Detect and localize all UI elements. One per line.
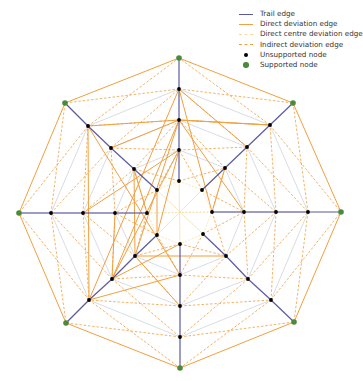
centre-deviation-edge: [203, 212, 212, 234]
trail-edge: [248, 279, 271, 300]
direct-deviation-edge: [112, 244, 180, 279]
indirect-deviation-swatch-icon: [238, 40, 254, 50]
legend-item-supported-node: Supported node: [238, 60, 363, 70]
indirect-deviation-edge: [180, 300, 271, 368]
indirect-deviation-edge: [112, 279, 180, 337]
unsupported-node: [268, 123, 272, 127]
unsupported-node: [245, 145, 249, 149]
direct-deviation-edge: [179, 89, 212, 212]
centre-deviation-edge: [179, 181, 202, 190]
indirect-deviation-edge: [179, 150, 202, 190]
unsupported-node: [178, 242, 182, 246]
indirect-deviation-edge: [248, 212, 308, 279]
supported-node: [62, 100, 68, 106]
legend-label: Unsupported node: [260, 50, 327, 60]
indirect-deviation-edge: [202, 190, 244, 212]
legend-label: Direct deviation edge: [260, 19, 337, 29]
ring-edge: [226, 212, 244, 256]
unsupported-node: [224, 254, 228, 258]
supported-node: [176, 55, 182, 61]
legend-label: Supported node: [260, 60, 318, 70]
unsupported-node: [110, 277, 114, 281]
unsupported-node: [155, 233, 159, 237]
legend: Trail edge Direct deviation edge Direct …: [238, 9, 363, 70]
supported-node: [290, 100, 296, 106]
direct-deviation-swatch-icon: [238, 19, 254, 29]
legend-item-direct-deviation-edge: Direct deviation edge: [238, 19, 363, 29]
legend-label: Indirect deviation edge: [260, 40, 343, 50]
unsupported-node: [201, 232, 205, 236]
unsupported-node: [81, 211, 85, 215]
trail-edge: [271, 300, 294, 322]
indirect-deviation-edge: [88, 58, 179, 126]
direct-deviation-edge: [112, 150, 179, 279]
indirect-deviation-edge: [271, 212, 276, 300]
indirect-deviation-edge: [180, 275, 248, 279]
ring-edge: [115, 169, 134, 213]
indirect-deviation-edge: [179, 120, 225, 168]
ring-edge: [180, 256, 226, 275]
ring-edge: [179, 120, 247, 147]
unsupported-node: [113, 211, 117, 215]
indirect-deviation-edge: [226, 212, 276, 256]
unsupported-node-dot-icon: [238, 50, 254, 60]
indirect-deviation-edge: [180, 256, 226, 306]
supported-node: [291, 319, 297, 325]
supported-node: [177, 365, 183, 371]
unsupported-node: [178, 335, 182, 339]
unsupported-node: [177, 148, 181, 152]
unsupported-node: [246, 277, 250, 281]
ring-edge: [248, 212, 276, 279]
ring-edge: [135, 256, 180, 275]
trail-edge-swatch-icon: [238, 9, 254, 19]
legend-item-direct-centre-deviation-edge: Direct centre deviation edge: [238, 29, 363, 39]
ring-edge: [247, 147, 276, 212]
indirect-deviation-edge: [19, 213, 89, 300]
indirect-deviation-edge: [111, 148, 115, 213]
trail-edge: [66, 300, 89, 323]
indirect-deviation-edge: [244, 147, 247, 212]
indirect-deviation-edge: [180, 322, 294, 337]
direct-deviation-edge: [83, 150, 179, 213]
indirect-deviation-edge: [19, 126, 88, 213]
indirect-deviation-edge: [115, 190, 157, 213]
ring-edge: [89, 300, 180, 337]
indirect-deviation-edge: [270, 125, 276, 212]
unsupported-node: [132, 167, 136, 171]
unsupported-node: [109, 146, 113, 150]
indirect-deviation-edge: [270, 125, 341, 212]
ring-edge: [179, 89, 270, 125]
trail-edge: [247, 125, 270, 147]
trail-edge: [65, 103, 88, 126]
trail-edge: [111, 148, 134, 169]
unsupported-node: [223, 166, 227, 170]
indirect-deviation-edge: [180, 279, 248, 337]
unsupported-node: [210, 210, 214, 214]
indirect-deviation-edge: [203, 212, 244, 234]
unsupported-node: [178, 273, 182, 277]
direct-deviation-edge: [19, 213, 66, 323]
legend-item-trail-edge: Trail edge: [238, 9, 363, 19]
unsupported-node: [86, 124, 90, 128]
legend-label: Direct centre deviation edge: [260, 29, 363, 39]
trail-edge: [112, 256, 135, 279]
unsupported-node: [177, 179, 181, 183]
ring-edge: [134, 150, 179, 169]
unsupported-node: [178, 304, 182, 308]
direct-deviation-edge: [179, 89, 247, 147]
legend-item-unsupported-node: Unsupported node: [238, 50, 363, 60]
trail-edge: [270, 103, 293, 125]
indirect-deviation-edge: [83, 126, 88, 213]
unsupported-node: [49, 211, 53, 215]
unsupported-node: [177, 118, 181, 122]
legend-item-indirect-deviation-edge: Indirect deviation edge: [238, 40, 363, 50]
ring-edge: [115, 213, 135, 256]
direct-centre-deviation-swatch-icon: [238, 30, 254, 40]
indirect-deviation-edge: [51, 148, 111, 213]
ring-edge: [83, 213, 112, 279]
centre-deviation-edge: [180, 234, 203, 244]
indirect-deviation-edge: [89, 300, 180, 368]
indirect-deviation-edge: [51, 213, 112, 279]
direct-deviation-edge: [293, 103, 341, 212]
supported-node: [338, 209, 344, 215]
